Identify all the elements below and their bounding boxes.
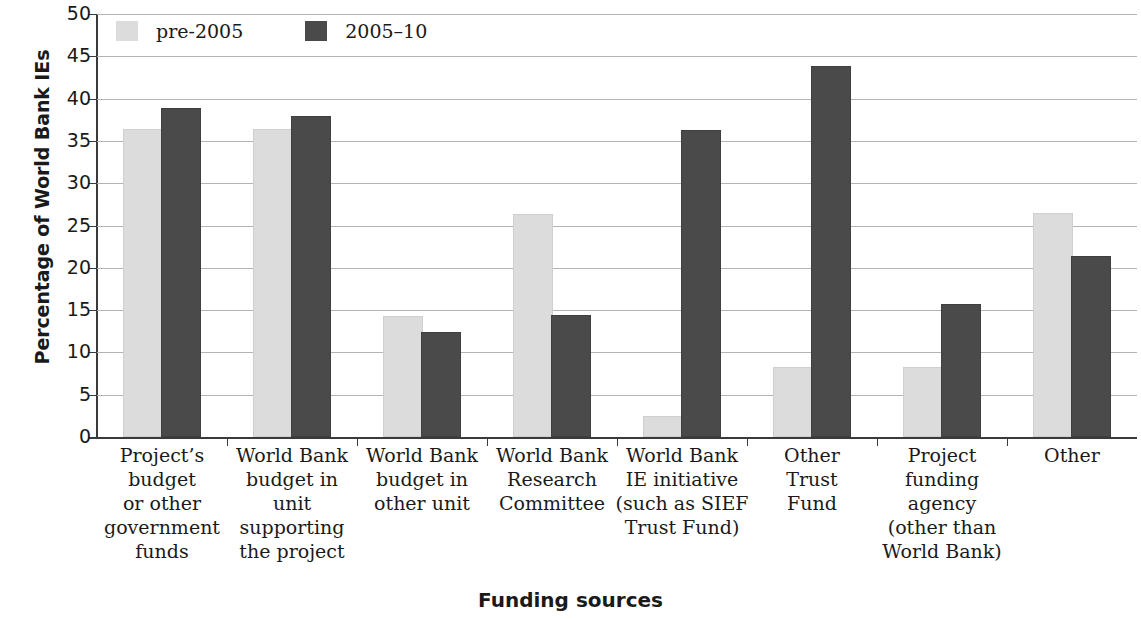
x-axis-label-line: (such as SIEF (607, 491, 757, 515)
y-axis-tick-label: 40 (51, 89, 91, 108)
y-axis-tick-label: 45 (51, 46, 91, 65)
bar-group (97, 14, 227, 437)
bar-2005-10 (681, 130, 721, 437)
bar-pre-2005 (903, 367, 943, 437)
x-axis-label-line: funding (867, 467, 1017, 491)
x-axis-label-line: budget in (347, 467, 497, 491)
x-axis-label-line: Project’s (87, 443, 237, 467)
x-axis-label-1: World Bankbudget inunitsupportingthe pro… (217, 443, 367, 563)
x-axis-label-line: Other (997, 443, 1141, 467)
bar-chart: Percentage of World Bank IEs 05101520253… (0, 0, 1141, 619)
legend-swatch-light-icon (116, 21, 138, 41)
y-axis-tick-label: 20 (51, 258, 91, 277)
bar-group (227, 14, 357, 437)
x-axis-label-line: Fund (737, 491, 887, 515)
chart-legend: pre-2005 2005–10 (116, 20, 427, 42)
x-axis-title: Funding sources (0, 588, 1141, 612)
x-axis-label-line: Committee (477, 491, 627, 515)
y-axis-tick-label: 25 (51, 216, 91, 235)
bar-pre-2005 (1033, 213, 1073, 437)
x-axis-label-line: World Bank (217, 443, 367, 467)
legend-label-pre-2005: pre-2005 (156, 20, 243, 42)
x-axis-label-6: Projectfundingagency(other thanWorld Ban… (867, 443, 1017, 563)
y-axis-tick-label: 50 (51, 4, 91, 23)
legend-item-2005-10: 2005–10 (305, 20, 427, 42)
bar-pre-2005 (253, 129, 293, 437)
bar-group (747, 14, 877, 437)
bar-pre-2005 (383, 316, 423, 437)
x-axis-label-line: Trust (737, 467, 887, 491)
bar-pre-2005 (773, 367, 813, 437)
bar-group (487, 14, 617, 437)
y-axis-tick-label: 10 (51, 342, 91, 361)
y-axis-tick-label: 35 (51, 131, 91, 150)
bar-pre-2005 (123, 129, 163, 437)
bar-2005-10 (421, 332, 461, 437)
x-axis-label-line: Trust Fund) (607, 515, 757, 539)
y-axis-title: Percentage of World Bank IEs (31, 0, 53, 417)
bar-pre-2005 (513, 214, 553, 437)
legend-label-2005-10: 2005–10 (345, 20, 427, 42)
x-axis-label-0: Project’sbudgetor othergovernmentfunds (87, 443, 237, 563)
bar-2005-10 (941, 304, 981, 437)
bar-group (617, 14, 747, 437)
bar-2005-10 (1071, 256, 1111, 437)
bar-2005-10 (551, 315, 591, 437)
bar-group (1007, 14, 1137, 437)
x-axis-label-line: supporting (217, 515, 367, 539)
x-axis-label-line: Project (867, 443, 1017, 467)
bar-pre-2005 (643, 416, 683, 437)
y-axis-tick-label: 15 (51, 300, 91, 319)
x-axis-label-3: World BankResearchCommittee (477, 443, 627, 515)
y-axis-tick-label: 0 (51, 427, 91, 446)
x-axis-label-2: World Bankbudget inother unit (347, 443, 497, 515)
x-axis-label-4: World BankIE initiative(such as SIEFTrus… (607, 443, 757, 539)
x-axis-label-line: World Bank (477, 443, 627, 467)
plot-area: 05101520253035404550 (97, 14, 1137, 437)
x-axis-label-line: Other (737, 443, 887, 467)
y-axis-tick-label: 5 (51, 385, 91, 404)
x-axis-label-line: World Bank (347, 443, 497, 467)
x-axis-label-line: budget (87, 467, 237, 491)
bar-2005-10 (161, 108, 201, 437)
legend-item-pre-2005: pre-2005 (116, 20, 243, 42)
x-axis-label-line: funds (87, 539, 237, 563)
x-axis-label-7: Other (997, 443, 1141, 467)
x-axis-label-line: (other than (867, 515, 1017, 539)
bar-2005-10 (291, 116, 331, 437)
bar-2005-10 (811, 66, 851, 437)
legend-swatch-dark-icon (305, 21, 327, 41)
x-axis-label-line: agency (867, 491, 1017, 515)
x-axis-category-labels: Project’sbudgetor othergovernmentfundsWo… (97, 443, 1137, 583)
x-axis-label-line: or other (87, 491, 237, 515)
x-axis-label-5: OtherTrustFund (737, 443, 887, 515)
x-axis-label-line: Research (477, 467, 627, 491)
x-axis-label-line: budget in (217, 467, 367, 491)
x-axis-label-line: the project (217, 539, 367, 563)
x-axis-label-line: World Bank) (867, 539, 1017, 563)
x-axis-label-line: other unit (347, 491, 497, 515)
bar-group (877, 14, 1007, 437)
x-axis-label-line: IE initiative (607, 467, 757, 491)
x-axis-label-line: government (87, 515, 237, 539)
y-axis-tick-label: 30 (51, 173, 91, 192)
x-axis-label-line: World Bank (607, 443, 757, 467)
bar-group (357, 14, 487, 437)
x-axis-label-line: unit (217, 491, 367, 515)
